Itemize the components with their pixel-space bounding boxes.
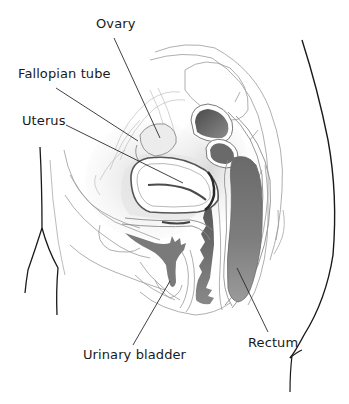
label-urinary-bladder: Urinary bladder bbox=[83, 348, 186, 361]
urinary-bladder bbox=[125, 233, 186, 287]
leader-urinary-bladder bbox=[133, 281, 170, 345]
rectum bbox=[227, 157, 262, 302]
leader-fallopian-tube bbox=[56, 88, 138, 141]
gluteal-cleft bbox=[290, 350, 302, 392]
label-uterus: Uterus bbox=[22, 114, 66, 127]
label-ovary: Ovary bbox=[96, 17, 135, 30]
label-fallopian-tube: Fallopian tube bbox=[18, 67, 111, 80]
thigh-contour bbox=[25, 147, 58, 315]
body-contour-back bbox=[290, 40, 335, 358]
label-rectum: Rectum bbox=[248, 336, 298, 349]
